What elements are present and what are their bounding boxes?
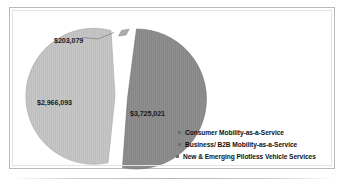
- legend-label: Business/ B2B Mobility-as-a-Service: [185, 141, 297, 148]
- data-label-pilotless: $203,079: [54, 36, 83, 45]
- data-label-consumer: $3,725,021: [130, 109, 165, 118]
- legend-label: Consumer Mobility-as-a-Service: [185, 129, 284, 136]
- legend-item-business[interactable]: Business/ B2B Mobility-as-a-Service: [178, 138, 328, 150]
- chart-legend: Consumer Mobility-as-a-Service Business/…: [176, 126, 328, 162]
- legend-item-consumer[interactable]: Consumer Mobility-as-a-Service: [178, 126, 328, 138]
- page-baseline-rule: [12, 178, 334, 179]
- pie-slice-business: [26, 28, 115, 164]
- legend-marker-icon: [178, 131, 181, 134]
- legend-marker-icon: [176, 155, 179, 158]
- data-label-business: $2,966,093: [37, 98, 72, 107]
- legend-marker-icon: [178, 143, 181, 146]
- pie-slice-pilotless: [119, 29, 130, 36]
- chart-frame: $203,079 $2,966,093 $3,725,021 Consumer …: [9, 7, 335, 169]
- legend-label: New & Emerging Pilotless Vehicle Service…: [183, 153, 316, 160]
- legend-item-pilotless[interactable]: New & Emerging Pilotless Vehicle Service…: [176, 150, 328, 162]
- pie-chart-area: $203,079 $2,966,093 $3,725,021 Consumer …: [10, 8, 336, 170]
